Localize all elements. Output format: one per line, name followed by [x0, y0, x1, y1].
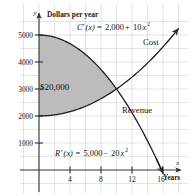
cost-equation-coefficient: 10: [133, 23, 141, 32]
revenue-equation-const: 5,000: [84, 149, 103, 158]
y-axis-caption: Dollars per year: [47, 10, 99, 19]
revenue-equation-fn: R: [54, 149, 60, 158]
cost-equation-operator: +: [125, 23, 130, 32]
revenue-equation-equals: =: [76, 149, 81, 158]
cost-equation-const: 2,000: [105, 23, 124, 32]
x-tick-label-8: 8: [99, 175, 103, 184]
revenue-equation-operator: −: [104, 149, 109, 158]
revenue-equation-coefficient: 20: [111, 149, 119, 158]
cost-series-label: Cost: [143, 37, 159, 47]
y-tick-label-1000: 1000: [18, 139, 33, 148]
x-tick-label-4: 4: [68, 175, 72, 184]
x-axis-caption: Years: [163, 174, 180, 182]
cost-equation: C ′ (x) = 2,000 + 10 x 2: [77, 21, 150, 32]
revenue-equation-arg: (x): [64, 149, 74, 158]
cost-equation-equals: =: [97, 23, 102, 32]
cost-equation-exponent: 2: [147, 21, 150, 27]
revenue-equation: R ′ (x) = 5,000 − 20 x 2: [54, 147, 128, 158]
revenue-equation-variable: x: [120, 149, 125, 158]
revenue-equation-exponent: 2: [125, 147, 128, 153]
revenue-series-label: Revenue: [122, 105, 152, 115]
y-tick-label-3000: 3000: [18, 85, 33, 94]
chart-svg: Dollars per year y Years x 5000 4000 300…: [0, 0, 190, 196]
cost-equation-arg: (x): [85, 23, 95, 32]
shaded-area-label: $20,000: [40, 82, 70, 92]
x-tick-label-12: 12: [128, 175, 136, 184]
y-tick-label-4000: 4000: [18, 58, 33, 67]
cost-equation-variable: x: [142, 23, 147, 32]
x-tick-label-16: 16: [157, 175, 165, 184]
chart-figure: Dollars per year y Years x 5000 4000 300…: [0, 0, 190, 196]
y-tick-label-2000: 2000: [18, 112, 33, 121]
y-tick-label-5000: 5000: [18, 31, 33, 40]
